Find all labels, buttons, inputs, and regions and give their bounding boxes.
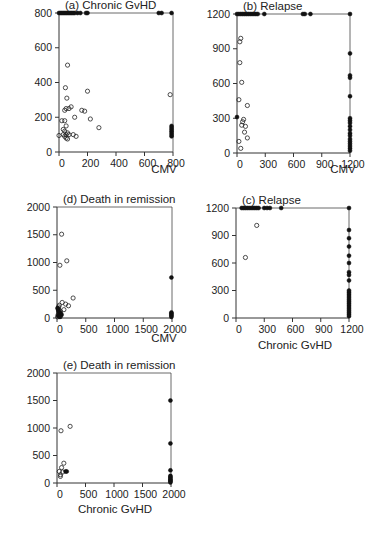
data-point-observed xyxy=(83,109,87,113)
panel-title: (d) Death in remission xyxy=(63,193,175,205)
data-point-observed xyxy=(65,63,69,67)
data-point-observed xyxy=(63,119,67,123)
data-point-censored xyxy=(348,94,352,98)
data-point-censored xyxy=(268,206,272,210)
data-point-observed xyxy=(73,115,77,119)
data-point-censored xyxy=(58,315,62,319)
y-tick-label: 500 xyxy=(32,449,50,461)
data-point-censored xyxy=(168,468,172,472)
y-tick-label: 0 xyxy=(46,146,52,158)
y-tick-label: 600 xyxy=(211,257,229,269)
x-tick-label: 0 xyxy=(59,157,65,169)
data-point-censored xyxy=(308,12,312,16)
y-tick-label: 1200 xyxy=(207,8,231,20)
panel-e: 05001000150020000500100015002000(e) Deat… xyxy=(27,359,186,515)
data-point-censored xyxy=(235,115,239,119)
y-tick-label: 1000 xyxy=(27,256,51,268)
data-point-observed xyxy=(168,93,172,97)
data-point-observed xyxy=(255,223,259,227)
data-point-censored xyxy=(65,469,69,473)
data-point-observed xyxy=(60,232,64,236)
data-point-observed xyxy=(65,259,69,263)
data-point-censored xyxy=(348,76,352,80)
x-axis-label: Chronic GvHD xyxy=(78,503,152,515)
x-tick-label: 600 xyxy=(288,158,306,170)
data-point-censored xyxy=(257,206,261,210)
data-point-censored xyxy=(279,206,283,210)
x-tick-label: 0 xyxy=(57,323,63,335)
data-point-censored xyxy=(168,399,172,403)
data-point-censored xyxy=(348,51,352,55)
data-point-observed xyxy=(242,130,246,134)
data-point-censored xyxy=(168,441,172,445)
data-point-censored xyxy=(169,315,173,319)
x-axis-label: Chronic GvHD xyxy=(258,339,332,351)
x-tick-label: 500 xyxy=(80,323,98,335)
data-point-observed xyxy=(59,466,63,470)
x-tick-label: 1200 xyxy=(340,323,364,335)
x-tick-label: 2000 xyxy=(162,488,186,500)
data-point-censored xyxy=(169,275,173,279)
y-tick-label: 2000 xyxy=(27,201,51,213)
data-point-censored xyxy=(168,480,172,484)
data-point-observed xyxy=(243,124,247,128)
y-tick-label: 0 xyxy=(44,477,50,489)
x-tick-label: 1000 xyxy=(106,323,130,335)
data-point-observed xyxy=(59,429,63,433)
data-point-observed xyxy=(238,61,242,65)
x-axis-label: CMV xyxy=(330,163,356,175)
data-point-observed xyxy=(63,86,67,90)
y-tick-label: 600 xyxy=(212,77,230,89)
panel-a: 02004006008000200400600800(a) Chronic Gv… xyxy=(34,0,184,175)
panel-title: (e) Death in remission xyxy=(63,359,175,371)
y-tick-label: 1000 xyxy=(27,422,51,434)
y-tick-label: 600 xyxy=(34,41,52,53)
data-point-censored xyxy=(256,12,260,16)
x-tick-label: 200 xyxy=(82,157,100,169)
panel-title: (b) Relapse xyxy=(243,0,302,12)
data-point-censored xyxy=(160,11,164,15)
data-point-observed xyxy=(88,117,92,121)
x-tick-label: 300 xyxy=(258,323,276,335)
x-tick-label: 0 xyxy=(236,323,242,335)
x-tick-label: 900 xyxy=(315,323,333,335)
data-point-observed xyxy=(68,424,72,428)
panel-title: (a) Chronic GvHD xyxy=(65,0,156,11)
panel-d: 05001000150020000500100015002000(d) Deat… xyxy=(27,193,187,344)
data-point-censored xyxy=(303,12,307,16)
data-point-observed xyxy=(62,461,66,465)
data-point-censored xyxy=(170,134,174,138)
data-point-censored xyxy=(347,236,351,240)
y-tick-label: 0 xyxy=(224,147,230,159)
data-point-observed xyxy=(71,296,75,300)
y-tick-label: 2000 xyxy=(27,367,51,379)
data-point-observed xyxy=(85,89,89,93)
x-tick-label: 300 xyxy=(259,158,277,170)
panel-title: (c) Relapse xyxy=(242,194,301,206)
y-tick-label: 900 xyxy=(212,42,230,54)
data-point-censored xyxy=(347,261,351,265)
y-tick-label: 0 xyxy=(44,312,50,324)
x-axis-label: CMV xyxy=(151,332,177,344)
data-point-observed xyxy=(65,96,69,100)
data-point-censored xyxy=(347,278,351,282)
x-tick-label: 600 xyxy=(287,323,305,335)
data-point-censored xyxy=(347,228,351,232)
y-tick-label: 500 xyxy=(32,284,50,296)
x-tick-label: 0 xyxy=(237,158,243,170)
y-tick-label: 1200 xyxy=(206,202,230,214)
x-tick-label: 400 xyxy=(110,157,128,169)
data-point-censored xyxy=(262,12,266,16)
data-point-observed xyxy=(240,80,244,84)
y-tick-label: 1500 xyxy=(27,228,51,240)
data-point-observed xyxy=(239,146,243,150)
y-tick-label: 0 xyxy=(223,312,229,324)
data-point-censored xyxy=(170,11,174,15)
y-tick-label: 900 xyxy=(211,229,229,241)
data-point-observed xyxy=(243,255,247,259)
figure-canvas: 02004006008000200400600800(a) Chronic Gv… xyxy=(0,0,389,540)
y-tick-label: 200 xyxy=(34,111,52,123)
data-point-observed xyxy=(58,263,62,267)
panel-b: 0300600900120003006009001200(b) RelapseC… xyxy=(207,0,365,175)
y-tick-label: 400 xyxy=(34,76,52,88)
